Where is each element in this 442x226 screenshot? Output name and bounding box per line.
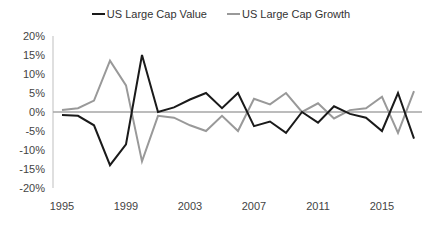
x-tick-label: 2011 (306, 200, 330, 212)
y-tick-label: -10% (19, 144, 45, 156)
line-chart: 20%15%10%5%0%-5%-10%-15%-20%199519992003… (0, 0, 442, 226)
x-tick-label: 2007 (242, 200, 266, 212)
x-tick-label: 1995 (50, 200, 74, 212)
y-tick-label: 20% (23, 30, 45, 42)
y-tick-label: 5% (29, 87, 45, 99)
y-tick-label: -5% (25, 125, 45, 137)
x-tick-label: 2003 (178, 200, 202, 212)
x-tick-label: 1999 (114, 200, 138, 212)
y-tick-label: -15% (19, 163, 45, 175)
series-line-us-large-cap-growth (62, 61, 414, 162)
y-tick-label: 10% (23, 68, 45, 80)
y-tick-label: 15% (23, 49, 45, 61)
x-tick-label: 2015 (370, 200, 394, 212)
series-line-us-large-cap-value (62, 55, 414, 165)
y-tick-label: -20% (19, 182, 45, 194)
y-tick-label: 0% (29, 106, 45, 118)
